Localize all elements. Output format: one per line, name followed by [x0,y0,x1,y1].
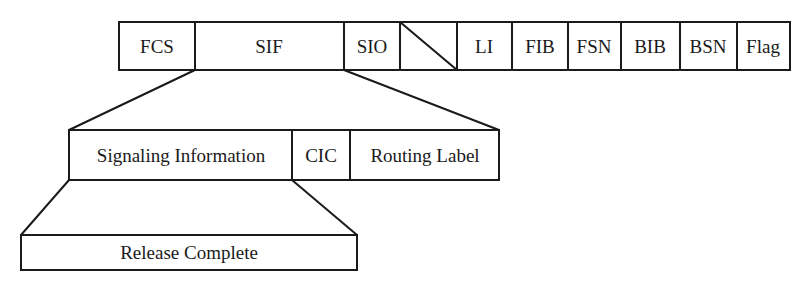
siginfo-expansion-row: Release Complete [21,235,357,270]
siginfo-expansion-connectors [21,180,357,235]
field-fcs: FCS [140,36,174,57]
connector-sif-right [344,70,499,130]
sif-expansion-row: Signaling Information CIC Routing Label [69,130,499,180]
field-flag: Flag [746,36,780,57]
msu-frame-row: FCS SIF SIO LI FIB FSN BIB BSN Flag [119,22,790,70]
field-cic: CIC [305,145,337,166]
connector-siginfo-right [292,180,357,235]
field-routing-label: Routing Label [370,145,479,166]
field-sio: SIO [357,36,388,57]
field-signaling-information: Signaling Information [97,145,266,166]
connector-siginfo-left [21,180,69,235]
sif-expansion-connectors [69,70,499,130]
connector-sif-left [69,70,195,130]
field-bib: BIB [634,36,666,57]
field-li: LI [475,36,493,57]
field-fib: FIB [525,36,555,57]
field-bsn: BSN [690,36,727,57]
field-fsn: FSN [577,36,612,57]
field-sif: SIF [255,36,282,57]
ss7-msu-structure-diagram: FCS SIF SIO LI FIB FSN BIB BSN Flag Sign… [0,0,811,292]
field-release-complete: Release Complete [120,242,258,263]
